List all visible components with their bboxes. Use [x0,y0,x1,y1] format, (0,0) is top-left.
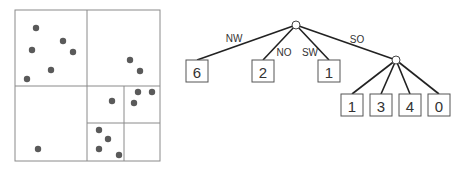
so-internal-node [392,56,400,64]
quadtree-diagram: 6NW2NO1SWSO1340 [0,0,465,170]
leaf-so-2: 4 [399,94,421,116]
data-point [149,89,155,95]
data-point [96,127,102,133]
data-point [35,146,41,152]
leaf-count: 0 [435,98,443,115]
leaf-nw: 6 [186,60,208,82]
leaf-no: 2 [252,60,274,82]
leaf-count: 6 [193,64,201,81]
leaf-so-0: 1 [341,94,363,116]
leaf-so-1: 3 [370,94,392,116]
data-point [96,146,102,152]
leaf-so-3: 0 [428,94,450,116]
edge-label-no: NO [277,47,292,58]
edge-label-so: SO [350,34,365,45]
leaf-count: 1 [325,64,333,81]
edge-label-nw: NW [226,33,243,44]
data-point [105,136,111,142]
leaf-count: 2 [259,64,267,81]
leaf-sw: 1 [318,60,340,82]
quadtree-partition [15,10,160,161]
leaf-count: 4 [406,98,414,115]
data-point [29,47,35,53]
leaf-count: 3 [377,98,385,115]
data-point [33,25,39,31]
data-point [24,76,30,82]
data-point [109,98,115,104]
root-node [292,21,300,29]
data-point [48,67,54,73]
tree-edge [352,60,396,94]
quadtree-tree: 6NW2NO1SWSO1340 [186,21,450,116]
data-point [60,38,66,44]
data-point [137,68,143,74]
data-point [70,49,76,55]
leaf-count: 1 [348,98,356,115]
data-point [131,100,137,106]
edge-label-sw: SW [302,47,319,58]
data-point [127,57,133,63]
data-point [135,89,141,95]
data-point [116,152,122,158]
